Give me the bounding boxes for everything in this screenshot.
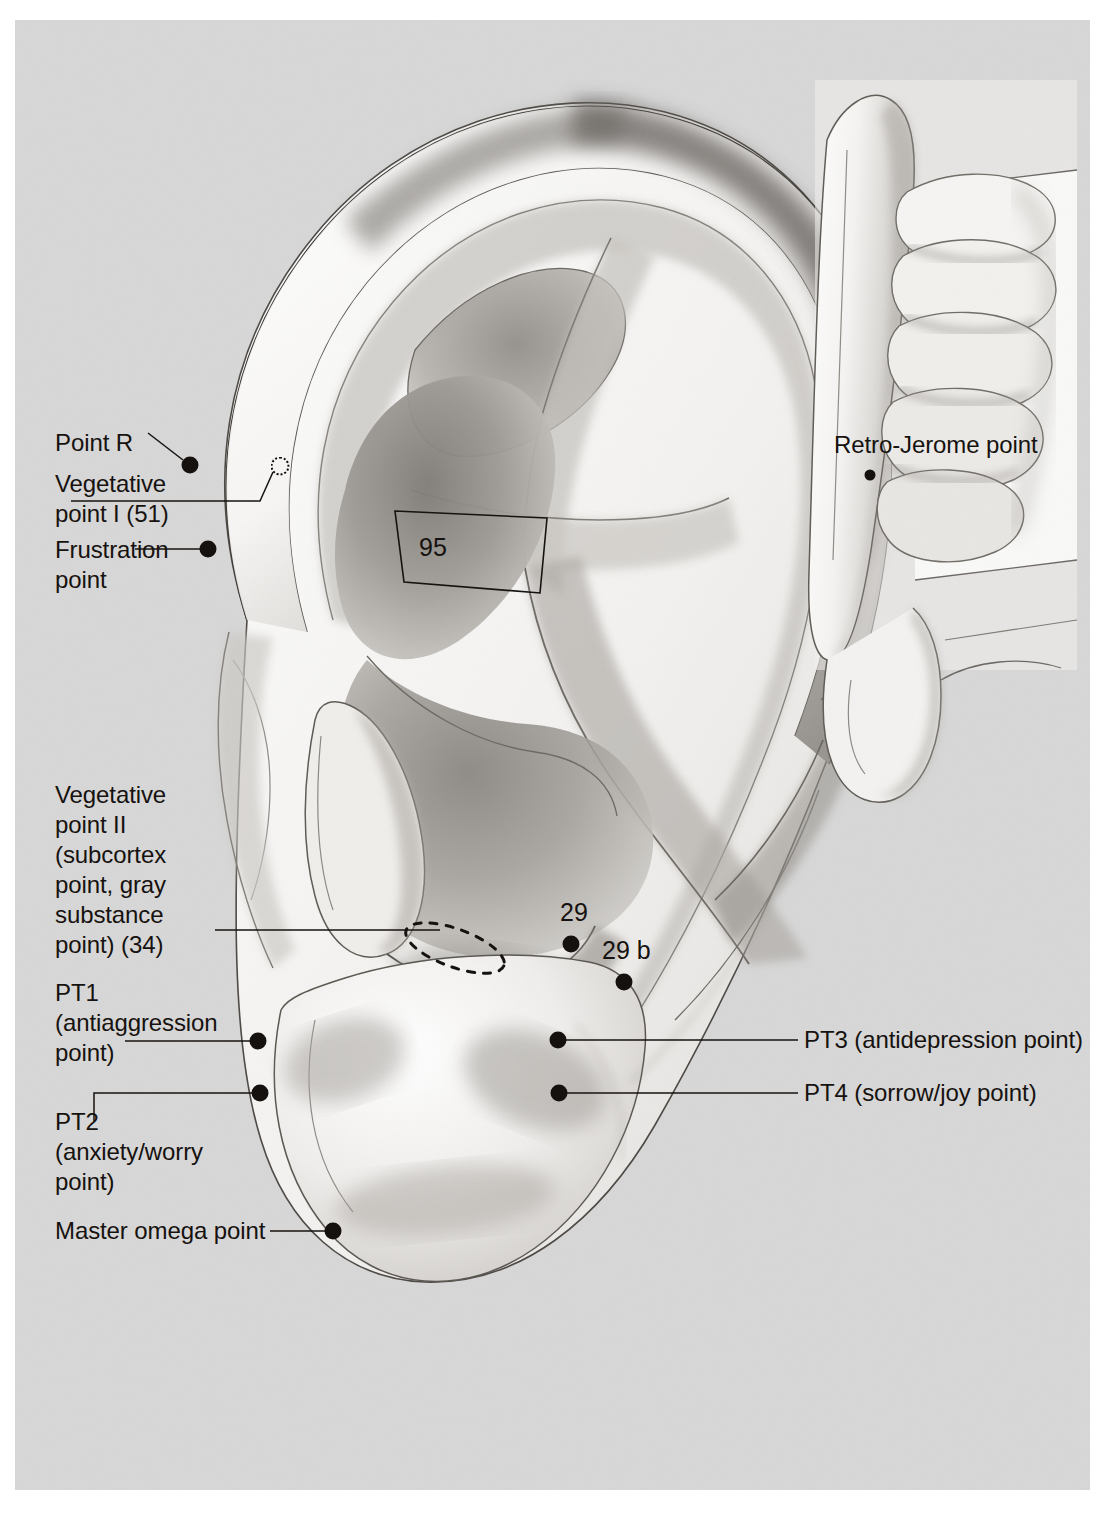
vegetative-point-i-marker[interactable] bbox=[271, 457, 290, 476]
label-pt3: PT3 (antidepression point) bbox=[804, 1025, 1083, 1055]
label-point-29: 29 bbox=[560, 898, 588, 926]
pt2-marker[interactable] bbox=[252, 1085, 269, 1102]
frustration-point-marker[interactable] bbox=[200, 541, 217, 558]
label-pt2: PT2 (anxiety/worry point) bbox=[55, 1107, 203, 1197]
retro-jerome-point-marker[interactable] bbox=[865, 470, 876, 481]
label-pt1: PT1 (antiaggression point) bbox=[55, 978, 218, 1068]
pt1-marker[interactable] bbox=[250, 1033, 267, 1050]
ear-illustration bbox=[15, 20, 1090, 1490]
master-omega-point-marker[interactable] bbox=[325, 1223, 342, 1240]
label-zone-95: 95 bbox=[419, 533, 447, 561]
label-vegetative-point-ii: Vegetative point II (subcortex point, gr… bbox=[55, 780, 166, 960]
label-master-omega-point: Master omega point bbox=[55, 1216, 265, 1246]
label-point-r: Point R bbox=[55, 428, 133, 458]
label-vegetative-point-i: Vegetative point I (51) bbox=[55, 469, 169, 529]
point-29-marker[interactable] bbox=[563, 936, 580, 953]
pt3-marker[interactable] bbox=[550, 1032, 567, 1049]
label-point-29b: 29 b bbox=[602, 936, 651, 964]
point-r-marker[interactable] bbox=[182, 457, 199, 474]
label-retro-jerome-point: Retro-Jerome point bbox=[834, 430, 1038, 460]
point-29b-marker[interactable] bbox=[616, 974, 633, 991]
pt4-marker[interactable] bbox=[551, 1085, 568, 1102]
illustration-plate: Point R Vegetative point I (51) Frustrat… bbox=[15, 20, 1090, 1490]
label-pt4: PT4 (sorrow/joy point) bbox=[804, 1078, 1037, 1108]
label-frustration-point: Frustration point bbox=[55, 535, 169, 595]
